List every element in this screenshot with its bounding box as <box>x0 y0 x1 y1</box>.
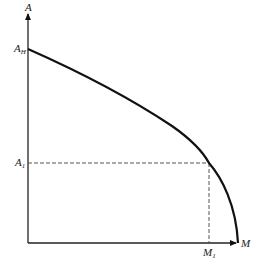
x-axis-label: M <box>240 237 251 249</box>
frontier-curve <box>28 49 238 243</box>
y-intercept-label: AH <box>13 42 27 56</box>
y-mark-label: A1 <box>14 156 25 170</box>
y-axis-label: A <box>24 1 32 13</box>
x-mark-label: M1 <box>202 246 216 260</box>
diagram-canvas: A M AH A1 M1 <box>0 0 268 265</box>
